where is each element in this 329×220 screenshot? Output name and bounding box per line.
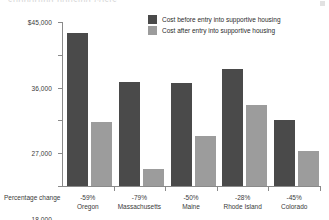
- x-axis-label-colorado: -45%Colorado: [262, 194, 326, 211]
- y-axis-tick: 9,000: [58, 153, 62, 154]
- bar-group: [222, 22, 267, 186]
- category-separator: [165, 186, 166, 191]
- bar-before-colorado: [274, 120, 295, 186]
- y-axis-tick-label: 18,000: [32, 215, 52, 220]
- y-axis-tick: 27,000: [58, 88, 62, 89]
- bar-group: [67, 22, 112, 186]
- bar-group: [119, 22, 164, 186]
- y-axis-tick-label: 36,000: [32, 84, 52, 91]
- bar-before-maine: [171, 83, 192, 186]
- plot-area: $45,00036,00027,00018,0009,0000: [62, 22, 320, 186]
- bar-after-oregon: [91, 122, 112, 186]
- x-axis-line: [62, 186, 320, 187]
- bar-group: [171, 22, 216, 186]
- y-axis-tick: 0: [58, 186, 62, 187]
- y-axis-tick-label: $45,000: [28, 19, 52, 26]
- category-separator: [217, 186, 218, 191]
- cropped-title-remnant: supporting housing costs: [8, 0, 117, 2]
- category-name: Colorado: [262, 203, 326, 212]
- bar-before-rhode-island: [222, 69, 243, 186]
- percentage-change-value: -45%: [262, 194, 326, 203]
- bar-after-maine: [195, 136, 216, 186]
- corner-artifact: [320, 1, 325, 6]
- bar-after-rhode-island: [246, 105, 267, 186]
- bar-group: [274, 22, 319, 186]
- category-separator: [320, 186, 321, 191]
- y-axis-tick: $45,000: [58, 22, 62, 23]
- bar-before-massachusetts: [119, 82, 140, 186]
- y-axis-tick: 18,000: [58, 120, 62, 121]
- percentage-change-axis-label: Percentage change: [4, 194, 60, 201]
- bar-after-massachusetts: [143, 169, 164, 186]
- category-separator: [268, 186, 269, 191]
- bar-chart-figure: supporting housing costs Cost before ent…: [0, 0, 329, 220]
- y-axis-tick: 36,000: [58, 55, 62, 56]
- bar-after-colorado: [298, 151, 319, 186]
- y-axis-tick-label: 27,000: [32, 150, 52, 157]
- y-axis-line: [62, 22, 63, 186]
- category-separator: [114, 186, 115, 191]
- bar-before-oregon: [67, 33, 88, 186]
